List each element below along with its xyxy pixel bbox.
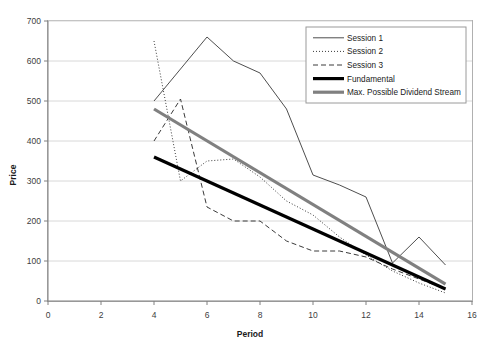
y-tick-label: 200 <box>27 216 41 226</box>
y-tick-label: 700 <box>27 16 41 26</box>
chart-figure: 0100200300400500600700 0246810121416 Ses… <box>0 0 487 344</box>
y-tick-label: 500 <box>27 96 41 106</box>
x-tick-label: 2 <box>99 310 104 320</box>
x-tick-label: 8 <box>258 310 263 320</box>
x-tick-label: 14 <box>414 310 424 320</box>
x-tick-label: 10 <box>308 310 318 320</box>
price-period-line-chart: 0100200300400500600700 0246810121416 Ses… <box>0 0 487 344</box>
x-axis-title: Period <box>237 329 263 339</box>
legend-label: Session 2 <box>347 47 383 56</box>
x-tick-label: 4 <box>152 310 157 320</box>
legend-label: Fundamental <box>347 75 395 84</box>
x-tick-label: 16 <box>467 310 477 320</box>
y-tick-label: 300 <box>27 176 41 186</box>
x-tick-label: 6 <box>205 310 210 320</box>
legend-label: Session 1 <box>347 34 383 43</box>
x-tick-label: 0 <box>46 310 51 320</box>
x-tick-label: 12 <box>361 310 371 320</box>
y-tick-label: 100 <box>27 256 41 266</box>
y-axis-title: Price <box>8 164 18 185</box>
legend-label: Session 3 <box>347 61 383 70</box>
y-tick-label: 600 <box>27 56 41 66</box>
y-tick-label: 0 <box>36 296 41 306</box>
chart-legend: Session 1Session 2Session 3FundamentalMa… <box>306 27 466 103</box>
legend-label: Max. Possible Dividend Stream <box>347 88 461 97</box>
y-tick-label: 400 <box>27 136 41 146</box>
